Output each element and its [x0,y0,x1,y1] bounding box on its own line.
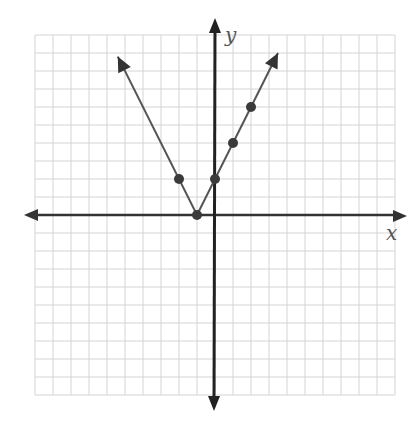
x-axis-left-arrow-icon [24,209,38,221]
data-point [246,102,256,112]
function-graph [118,53,278,220]
coordinate-plane: y x [0,0,415,427]
y-axis [214,26,215,402]
data-point [228,138,238,148]
data-point [210,174,220,184]
y-axis-up-arrow-icon [209,18,221,33]
x-axis-label: x [386,221,397,245]
graph-line [118,53,278,215]
axes: y x [24,18,407,411]
data-point [192,210,202,220]
y-axis-label: y [224,23,237,47]
y-axis-down-arrow-icon [208,396,220,411]
data-point [174,174,184,184]
